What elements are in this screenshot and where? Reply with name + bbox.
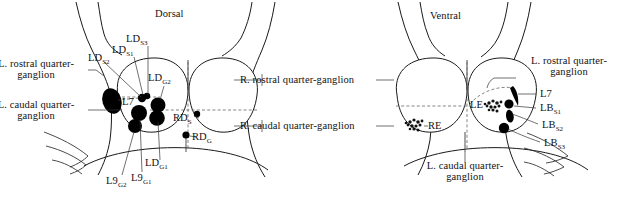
label-LB-S1-sub: S1 — [554, 108, 561, 116]
label-L7-ventral: L7 — [540, 88, 552, 99]
label-l-caudal-quarter-ganglion-ventral: L. caudal quarter-ganglion — [413, 160, 517, 182]
label-LD-S1: LDS1 — [112, 44, 134, 60]
label-L9-G2-base: L9 — [106, 175, 118, 186]
label-L9-G2-sub: G2 — [118, 181, 127, 189]
label-RD-G-base: RD — [192, 131, 207, 142]
label-l-rostral-quarter-ganglion-ventral: L. rostral quarter-ganglion — [519, 55, 619, 77]
blob-L9-G1 — [131, 105, 147, 121]
label-LD-G2-base: LD — [148, 72, 162, 83]
label-LD-S1-sub: S1 — [126, 50, 133, 58]
blob-LB-S1 — [504, 99, 513, 108]
ventral-view-title: Ventral — [430, 10, 461, 21]
label-r-caudal-quarter-ganglion: R. caudal quarter-ganglion — [240, 120, 355, 131]
label-LD-G2-sub: G2 — [162, 78, 171, 86]
blob-LD-G1 — [149, 110, 165, 126]
label-L9-G2: L9G2 — [106, 175, 126, 191]
blob-LD-S-cluster-2 — [144, 93, 150, 99]
label-LB-S2-sub: S2 — [556, 125, 563, 133]
label-LD-S2-sub: S2 — [102, 58, 109, 66]
label-RD-S: RDS — [173, 112, 192, 128]
ventral-ganglion-lobes — [396, 58, 536, 152]
label-RD-S-sub: S — [188, 118, 192, 126]
label-L9-G1-sub: G1 — [143, 178, 152, 186]
label-LB-S1: LBS1 — [540, 102, 561, 118]
label-L9-G1-base: L9 — [131, 172, 143, 183]
blob-LB-S3 — [499, 123, 509, 133]
dorsal-fin-strokes — [44, 132, 88, 174]
label-LE: LE — [470, 99, 483, 110]
label-LD-S2-base: LD — [88, 52, 102, 63]
label-RD-G: RDG — [192, 131, 212, 147]
label-LD-S2: LDS2 — [88, 52, 110, 68]
label-l-rostral-quarter-ganglion-dorsal: L. rostral quarter-ganglion — [0, 58, 88, 80]
figure-drawing — [0, 0, 622, 197]
label-L9-G1: L9G1 — [131, 172, 151, 188]
dorsal-view-title: Dorsal — [155, 8, 184, 19]
label-RD-G-sub: G — [207, 137, 212, 145]
label-LD-S1-base: LD — [112, 44, 126, 55]
label-LD-G1-base: LD — [145, 157, 159, 168]
label-LB-S2-base: LB — [542, 119, 556, 130]
anatomical-figure: Dorsal Ventral LDS3 LDS1 LDS2 LDG2 LDG1 … — [0, 0, 622, 197]
blob-RD-G — [182, 131, 189, 138]
label-LD-S3-sub: S3 — [140, 39, 147, 47]
label-LB-S3-sub: S3 — [558, 143, 565, 151]
label-LB-S1-base: LB — [540, 102, 554, 113]
label-RD-S-base: RD — [173, 112, 188, 123]
label-LD-G2: LDG2 — [148, 72, 171, 88]
label-l-caudal-quarter-ganglion-dorsal: L. caudal quarter-ganglion — [0, 99, 88, 121]
label-LD-S3-base: LD — [126, 33, 140, 44]
label-r-rostral-quarter-ganglion: R. rostral quarter-ganglion — [240, 74, 354, 85]
label-LB-S2: LBS2 — [542, 119, 563, 135]
label-LD-G1: LDG1 — [145, 157, 168, 173]
label-RE: RE — [428, 120, 442, 131]
label-LB-S3: LBS3 — [544, 137, 565, 153]
label-LD-G1-sub: G1 — [159, 163, 168, 171]
label-L7-dorsal: L7 — [122, 96, 134, 107]
label-LB-S3-base: LB — [544, 137, 558, 148]
blob-LD-G2 — [151, 98, 166, 113]
